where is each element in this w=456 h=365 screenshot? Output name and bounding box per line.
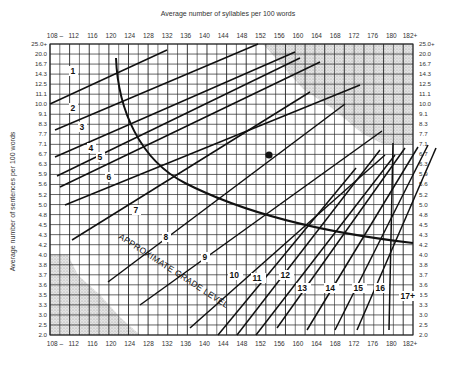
svg-text:164: 164 (311, 340, 322, 347)
svg-text:116: 116 (87, 340, 98, 347)
svg-text:180: 180 (386, 340, 397, 347)
x-axis-ticks-top: 108 –11211612012412813213614014414815215… (47, 32, 418, 39)
svg-text:5.0: 5.0 (38, 201, 47, 208)
svg-text:4.8: 4.8 (419, 211, 428, 218)
svg-text:16.7: 16.7 (419, 60, 432, 67)
svg-text:3.7: 3.7 (38, 271, 47, 278)
svg-text:3.8: 3.8 (419, 261, 428, 268)
svg-text:2.0: 2.0 (419, 331, 428, 338)
svg-text:16: 16 (376, 283, 386, 293)
svg-text:4.5: 4.5 (38, 221, 47, 228)
svg-text:5.6: 5.6 (38, 180, 47, 187)
svg-text:5.0: 5.0 (419, 201, 428, 208)
svg-text:5: 5 (98, 152, 103, 162)
svg-text:6.3: 6.3 (38, 160, 47, 167)
svg-text:14: 14 (326, 283, 336, 293)
svg-text:3.0: 3.0 (419, 311, 428, 318)
svg-text:4.0: 4.0 (419, 251, 428, 258)
svg-text:20.0: 20.0 (35, 50, 48, 57)
y-axis-ticks-left: 25.0+20.016.714.312.511.110.09.18.37.77.… (31, 40, 47, 338)
svg-text:14.3: 14.3 (35, 70, 48, 77)
svg-text:152: 152 (255, 32, 266, 39)
svg-text:25.0+: 25.0+ (31, 40, 47, 47)
svg-text:148: 148 (236, 32, 247, 39)
svg-text:4.2: 4.2 (38, 241, 47, 248)
svg-text:3.0: 3.0 (38, 311, 47, 318)
svg-text:17+: 17+ (401, 291, 415, 301)
svg-text:9.1: 9.1 (38, 110, 47, 117)
svg-text:180: 180 (386, 32, 397, 39)
svg-text:136: 136 (180, 32, 191, 39)
svg-text:5.2: 5.2 (419, 191, 428, 198)
svg-text:7.7: 7.7 (38, 130, 47, 137)
svg-text:120: 120 (106, 340, 117, 347)
y-axis-ticks-right: 25.0+20.016.714.312.511.110.09.18.37.77.… (419, 40, 435, 338)
svg-text:120: 120 (106, 32, 117, 39)
svg-text:172: 172 (349, 32, 360, 39)
svg-text:6.7: 6.7 (38, 150, 47, 157)
svg-text:13: 13 (298, 283, 308, 293)
svg-text:11.1: 11.1 (35, 90, 47, 97)
svg-text:2.5: 2.5 (38, 321, 47, 328)
svg-text:3.3: 3.3 (419, 301, 428, 308)
svg-text:7.1: 7.1 (38, 140, 47, 147)
x-axis-ticks-bottom: 108 –11211612012412813213614014414815215… (47, 340, 418, 347)
svg-text:4.5: 4.5 (419, 221, 428, 228)
svg-text:8: 8 (164, 232, 169, 242)
svg-text:144: 144 (218, 340, 229, 347)
svg-text:11: 11 (253, 273, 262, 283)
svg-text:8.3: 8.3 (38, 120, 47, 127)
svg-text:140: 140 (199, 32, 210, 39)
svg-text:3.3: 3.3 (38, 301, 47, 308)
svg-text:168: 168 (330, 340, 341, 347)
svg-text:2.0: 2.0 (38, 331, 47, 338)
svg-text:10.0: 10.0 (35, 100, 48, 107)
svg-text:3.5: 3.5 (419, 291, 428, 298)
svg-text:108 –: 108 – (47, 340, 64, 347)
svg-text:3.7: 3.7 (419, 271, 428, 278)
svg-text:7: 7 (134, 205, 139, 215)
svg-text:9: 9 (203, 252, 208, 262)
svg-text:5.2: 5.2 (38, 191, 47, 198)
svg-text:9.1: 9.1 (419, 110, 428, 117)
svg-text:12.5: 12.5 (35, 80, 48, 87)
svg-text:3.5: 3.5 (38, 291, 47, 298)
svg-text:112: 112 (68, 340, 79, 347)
svg-text:4.3: 4.3 (38, 231, 47, 238)
svg-text:128: 128 (143, 32, 154, 39)
fry-readability-graph: 108 –11211612012412813213614014414815215… (0, 0, 456, 365)
svg-text:124: 124 (124, 32, 135, 39)
approximate-grade-level-label: APPROXIMATE GRADE LEVEL (117, 231, 231, 310)
svg-text:15: 15 (354, 283, 364, 293)
svg-text:140: 140 (199, 340, 210, 347)
svg-text:3.6: 3.6 (419, 281, 428, 288)
svg-text:116: 116 (87, 32, 98, 39)
svg-text:160: 160 (292, 32, 303, 39)
svg-text:182+: 182+ (403, 32, 418, 39)
svg-text:136: 136 (180, 340, 191, 347)
svg-text:2.5: 2.5 (419, 321, 428, 328)
svg-text:3: 3 (80, 122, 85, 132)
svg-text:128: 128 (143, 340, 154, 347)
svg-text:6: 6 (107, 172, 112, 182)
svg-text:12.5: 12.5 (419, 80, 432, 87)
svg-text:5.9: 5.9 (38, 170, 47, 177)
svg-text:124: 124 (124, 340, 135, 347)
svg-text:12: 12 (281, 270, 291, 280)
svg-text:156: 156 (274, 340, 285, 347)
svg-text:4.0: 4.0 (38, 251, 47, 258)
svg-text:14.3: 14.3 (419, 70, 432, 77)
svg-text:1: 1 (71, 66, 76, 76)
svg-text:10.0: 10.0 (419, 100, 432, 107)
svg-text:4: 4 (89, 143, 94, 153)
svg-text:152: 152 (255, 340, 266, 347)
svg-text:7.7: 7.7 (419, 130, 428, 137)
plotted-point (265, 151, 272, 158)
svg-text:144: 144 (218, 32, 229, 39)
svg-text:10: 10 (230, 270, 240, 280)
svg-text:16.7: 16.7 (35, 60, 48, 67)
svg-text:172: 172 (349, 340, 360, 347)
svg-text:176: 176 (367, 32, 378, 39)
svg-text:164: 164 (311, 32, 322, 39)
svg-text:4.3: 4.3 (419, 231, 428, 238)
